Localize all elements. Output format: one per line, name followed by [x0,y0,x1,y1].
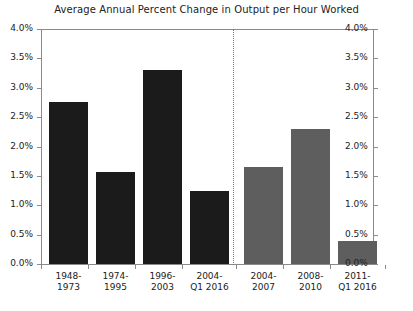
y-tick-right [374,205,378,206]
x-tick [385,265,386,269]
y-axis-label-right: 2.0% [345,142,368,151]
y-axis-label-left: 4.0% [10,24,33,33]
x-axis-category-label: 2004-Q1 2016 [180,271,239,293]
y-tick-left [37,235,41,236]
x-tick [41,265,42,269]
x-axis-line [41,264,374,265]
y-tick-right [374,176,378,177]
x-axis-category-label: 2011-Q1 2016 [328,271,387,293]
y-axis-label-left: 0.5% [10,230,33,239]
y-axis-label-right: 4.0% [345,24,368,33]
y-axis-label-left: 2.0% [10,142,33,151]
y-tick-left [37,147,41,148]
y-tick-right [374,117,378,118]
y-axis-label-left: 0.0% [10,259,33,268]
y-axis-label-right: 1.5% [345,171,368,180]
y-tick-right [374,235,378,236]
y-tick-left [37,29,41,30]
y-tick-left [37,117,41,118]
x-tick [330,265,331,269]
y-tick-right [374,29,378,30]
x-tick [283,265,284,269]
y-axis-label-right: 0.5% [345,230,368,239]
y-axis-label-left: 3.0% [10,83,33,92]
bar-1 [49,102,88,264]
x-label-line-2: Q1 2016 [328,282,387,293]
y-axis-label-left: 3.5% [10,53,33,62]
y-tick-right [374,88,378,89]
y-tick-left [37,88,41,89]
y-axis-label-left: 1.0% [10,200,33,209]
plot-area [41,29,374,265]
bar-5 [244,167,283,264]
x-label-line-2: Q1 2016 [180,282,239,293]
y-axis-label-right: 2.5% [345,112,368,121]
x-label-line-1: 2011- [328,271,387,282]
y-tick-left [37,176,41,177]
y-axis-label-left: 1.5% [10,171,33,180]
x-tick [236,265,237,269]
bar-3 [143,70,182,264]
y-axis-label-right: 1.0% [345,200,368,209]
y-tick-right [374,264,378,265]
y-tick-left [37,58,41,59]
y-tick-left [37,205,41,206]
y-tick-right [374,147,378,148]
chart-container: Average Annual Percent Change in Output … [0,0,413,311]
x-label-line-1: 2004- [180,271,239,282]
bar-4 [190,191,229,264]
y-axis-label-right: 3.5% [345,53,368,62]
chart-title: Average Annual Percent Change in Output … [0,4,413,15]
x-tick [182,265,183,269]
plot-top-border [41,29,374,30]
y-axis-label-right: 0.0% [345,259,368,268]
y-axis-label-left: 2.5% [10,112,33,121]
x-tick [88,265,89,269]
y-axis-left-line [41,29,42,265]
group-divider-line [233,29,234,265]
y-tick-right [374,58,378,59]
y-axis-label-right: 3.0% [345,83,368,92]
x-tick [135,265,136,269]
bar-6 [291,129,330,264]
bar-2 [96,172,135,264]
